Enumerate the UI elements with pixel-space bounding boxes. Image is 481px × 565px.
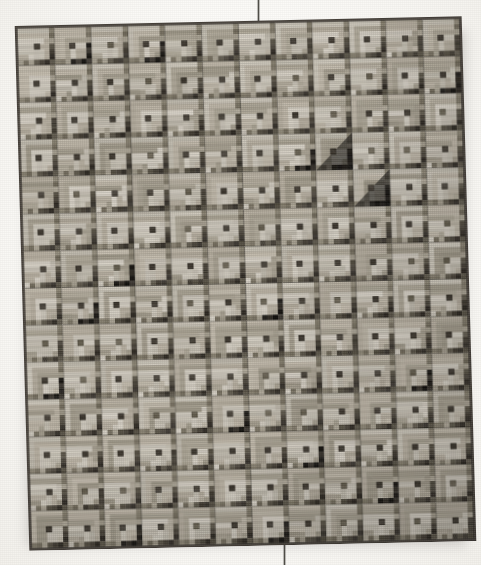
quilt-hanging <box>22 21 469 546</box>
quilt-block-grid <box>15 16 477 551</box>
quilt-surface <box>15 16 477 551</box>
photograph: Log Cabin quilt photographed hanging aga… <box>0 0 481 565</box>
